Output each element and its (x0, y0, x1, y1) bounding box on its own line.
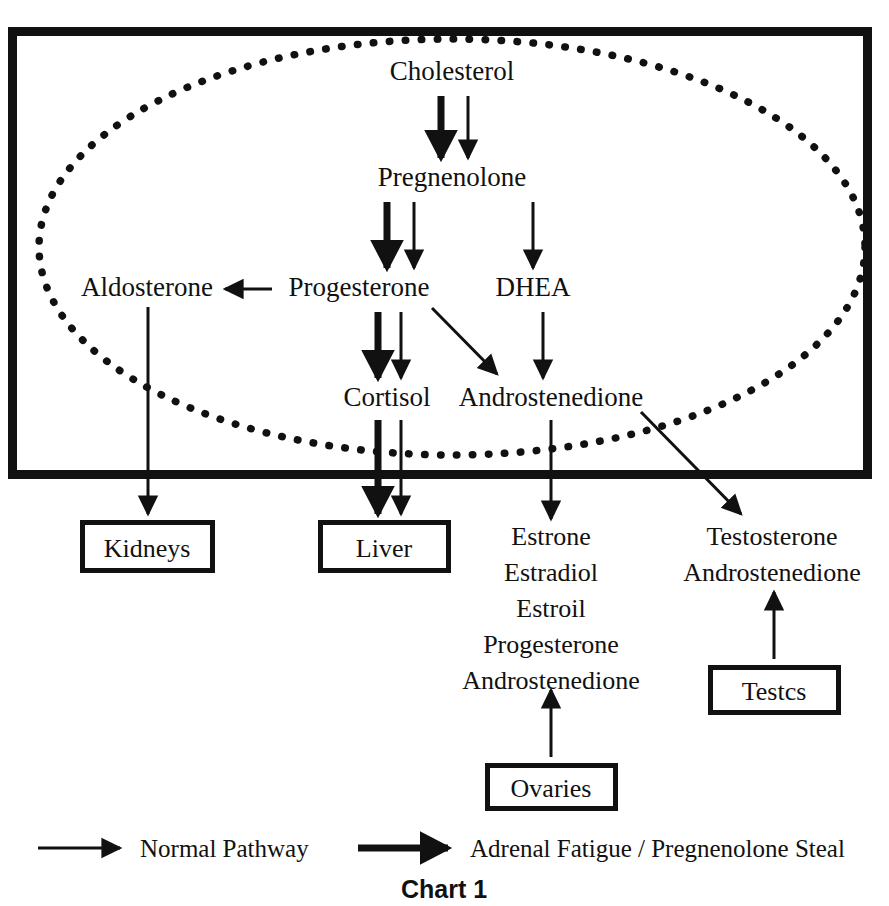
organ-box-kidneys: Kidneys (83, 523, 213, 571)
testicular-hormone-line-2: Androstenedione (683, 558, 861, 587)
node-dhea: DHEA (496, 272, 571, 302)
ovarian-hormone-line-2: Estradiol (504, 558, 598, 587)
node-pregnenolone: Pregnenolone (378, 162, 526, 192)
organ-label-kidneys: Kidneys (104, 534, 191, 563)
organ-label-ovaries: Ovaries (511, 774, 592, 803)
ovarian-hormone-line-1: Estrone (511, 522, 590, 551)
legend-label-pregnenolone-steal: Adrenal Fatigue / Pregnenolone Steal (470, 835, 845, 862)
node-aldosterone: Aldosterone (81, 272, 213, 302)
edge-androstenedione-testicular-hormones (641, 412, 741, 514)
organ-box-ovaries: Ovaries (488, 766, 616, 809)
chart-caption: Chart 1 (401, 875, 487, 903)
hormone-stack-ovarian: Estrone Estradiol Estroil Progesterone A… (462, 522, 640, 695)
legend-item-pregnenolone-steal: Adrenal Fatigue / Pregnenolone Steal (358, 835, 845, 862)
node-progesterone: Progesterone (289, 272, 430, 302)
node-cholesterol: Cholesterol (390, 56, 514, 86)
legend: Normal Pathway Adrenal Fatigue / Pregnen… (38, 835, 845, 862)
node-cortisol: Cortisol (343, 382, 430, 412)
hormone-stack-testicular: Testosterone Androstenedione (683, 522, 861, 587)
legend-label-normal-pathway: Normal Pathway (140, 835, 309, 862)
organ-label-liver: Liver (356, 534, 413, 563)
edge-progesterone-androstenedione (432, 308, 497, 374)
pathway-diagram: Cholesterol Pregnenolone Aldosterone Pro… (0, 0, 889, 906)
node-androstenedione: Androstenedione (459, 382, 643, 412)
organ-box-liver: Liver (321, 523, 449, 571)
ovarian-hormone-line-5: Androstenedione (462, 666, 640, 695)
organ-label-testes: Testcs (742, 677, 807, 706)
organ-box-testes: Testcs (711, 668, 839, 713)
ovarian-hormone-line-3: Estroil (516, 594, 585, 623)
testicular-hormone-line-1: Testosterone (706, 522, 837, 551)
pathway-chart-root: Cholesterol Pregnenolone Aldosterone Pro… (0, 0, 889, 906)
legend-item-normal-pathway: Normal Pathway (38, 835, 309, 862)
ovarian-hormone-line-4: Progesterone (483, 630, 619, 659)
adrenal-gland-ellipse (39, 39, 865, 455)
